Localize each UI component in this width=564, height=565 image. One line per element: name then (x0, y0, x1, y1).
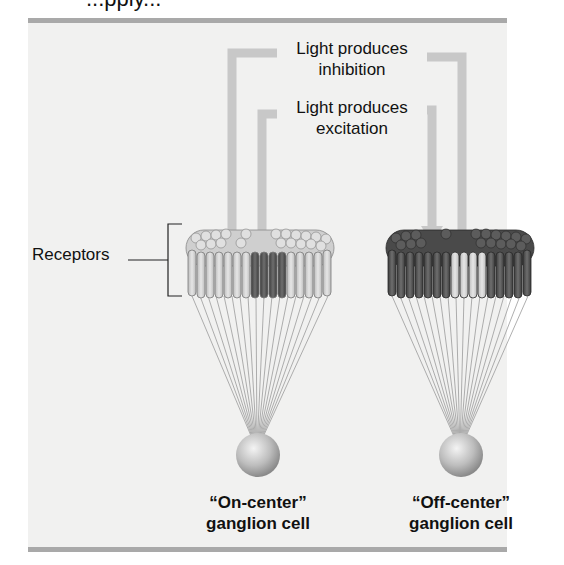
excitation-label-line1: Light produces (281, 97, 423, 118)
header-fragment: ...pply... (86, 0, 161, 12)
inhibition-label-line1: Light produces (281, 38, 423, 59)
on-center-title: “On-center” (178, 492, 338, 513)
excitation-label: Light produces excitation (277, 97, 427, 139)
off-center-fibers (392, 296, 528, 450)
off-center-title: “Off-center” (381, 492, 541, 513)
on-center-subtitle: ganglion cell (178, 513, 338, 534)
on-center-ganglion-cell (236, 433, 280, 477)
inhibition-label-line2: inhibition (281, 59, 423, 80)
on-center-receptors (186, 229, 334, 298)
excitation-label-line2: excitation (281, 118, 423, 139)
inhibition-label: Light produces inhibition (277, 38, 427, 80)
receptive-field-diagram (0, 0, 564, 565)
on-center-label: “On-center” ganglion cell (178, 492, 338, 534)
receptors-bracket (128, 224, 182, 296)
off-center-ganglion-cell (439, 433, 483, 477)
receptors-label: Receptors (32, 245, 109, 265)
off-center-label: “Off-center” ganglion cell (381, 492, 541, 534)
off-center-receptors (386, 229, 534, 298)
on-center-fibers (192, 296, 328, 450)
off-center-subtitle: ganglion cell (381, 513, 541, 534)
